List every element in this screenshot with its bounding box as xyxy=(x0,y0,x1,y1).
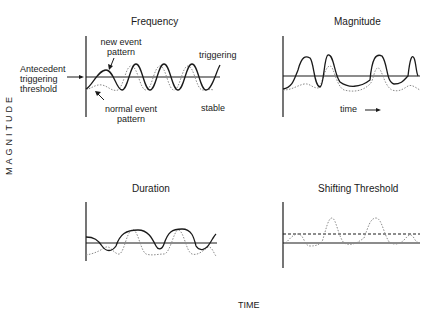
normal-event-arrowhead xyxy=(95,91,101,96)
threshold-label-line1: Antecedent xyxy=(20,64,66,74)
duration-title: Duration xyxy=(132,184,170,194)
threshold-label-line2: triggering xyxy=(20,74,66,84)
normal-event-label: normal event pattern xyxy=(96,104,166,124)
triggering-label: triggering xyxy=(199,50,237,60)
shifting-normal-curve xyxy=(283,218,420,246)
stable-label: stable xyxy=(201,103,225,113)
new-event-arrowhead xyxy=(108,64,113,70)
time-arrowhead xyxy=(376,108,381,112)
diagram-canvas xyxy=(0,0,436,317)
new-event-label: new event pattern xyxy=(91,37,151,57)
shifting-threshold-title: Shifting Threshold xyxy=(318,184,398,194)
magnitude-title: Magnitude xyxy=(334,17,381,27)
shifting-threshold-panel xyxy=(283,202,420,268)
normal-event-label-line1: normal event xyxy=(96,104,166,114)
new-event-label-line1: new event xyxy=(91,37,151,47)
y-axis-label: MAGNITUDE xyxy=(4,94,14,175)
threshold-label-line3: threshold xyxy=(20,84,66,94)
new-event-label-line2: pattern xyxy=(91,47,151,57)
x-axis-label: TIME xyxy=(238,300,260,310)
duration-panel xyxy=(86,202,217,261)
time-label: time xyxy=(340,104,357,114)
frequency-title: Frequency xyxy=(131,17,178,27)
threshold-arrowhead xyxy=(79,75,84,79)
normal-event-label-line2: pattern xyxy=(96,114,166,124)
magnitude-normal-curve xyxy=(283,66,420,91)
threshold-label: Antecedent triggering threshold xyxy=(20,64,66,94)
